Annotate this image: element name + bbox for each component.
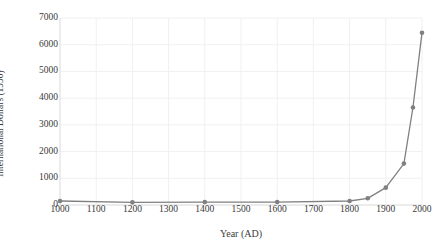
x-axis-tick-label: 1100 [87, 205, 106, 215]
x-axis-tick-labels: 1000110012001300140015001600170018001900… [0, 205, 439, 219]
x-axis-tick-label: 1000 [51, 205, 70, 215]
x-axis-tick-label: 1600 [268, 205, 287, 215]
chart-figure: International Dollars (1990) 01000200030… [0, 0, 439, 247]
x-axis-tick-label: 2000 [413, 205, 432, 215]
x-axis-tick-label: 1800 [340, 205, 359, 215]
x-axis-tick-label: 1400 [195, 205, 214, 215]
data-point-marker [420, 30, 425, 35]
data-point-marker [411, 105, 416, 110]
x-axis-tick-label: 1700 [304, 205, 323, 215]
x-axis-tick-label: 1900 [376, 205, 395, 215]
x-axis-tick-label: 1200 [123, 205, 142, 215]
data-point-marker [402, 161, 407, 166]
data-point-marker [58, 199, 63, 204]
data-point-marker [384, 185, 389, 190]
data-point-marker [365, 196, 370, 201]
x-axis-tick-label: 1300 [159, 205, 178, 215]
data-point-marker [347, 199, 352, 204]
x-axis-tick-label: 1500 [232, 205, 251, 215]
vertical-gridlines [96, 18, 422, 205]
x-axis-title: Year (AD) [60, 228, 422, 239]
